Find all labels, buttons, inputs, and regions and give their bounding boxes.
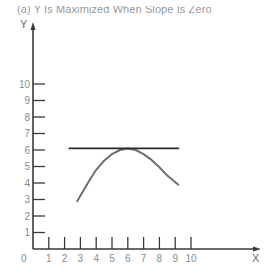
y-tick-label: 5 bbox=[24, 161, 30, 172]
x-axis-arrow-icon bbox=[253, 247, 261, 252]
x-tick-label: 4 bbox=[93, 253, 99, 264]
origin-label: 0 bbox=[21, 253, 27, 264]
x-axis-label: X bbox=[252, 252, 260, 264]
x-tick-label: 7 bbox=[141, 253, 147, 264]
x-tick-label: 10 bbox=[185, 253, 197, 264]
y-tick-label: 10 bbox=[19, 79, 31, 90]
x-tick-label: 9 bbox=[172, 253, 178, 264]
axis-ticks: 1234567891012345678910 bbox=[19, 79, 197, 265]
x-tick-label: 8 bbox=[157, 253, 163, 264]
axes: YX0 bbox=[20, 18, 261, 264]
x-tick-label: 1 bbox=[46, 253, 52, 264]
y-tick-label: 1 bbox=[24, 227, 30, 238]
y-axis-arrow-icon bbox=[31, 22, 36, 30]
x-tick-label: 2 bbox=[62, 253, 68, 264]
data-series bbox=[69, 148, 178, 201]
y-tick-label: 8 bbox=[24, 112, 30, 123]
curve-line bbox=[77, 148, 178, 201]
chart-canvas: YX0 1234567891012345678910 bbox=[0, 0, 280, 271]
y-tick-label: 7 bbox=[24, 128, 30, 139]
y-tick-label: 9 bbox=[24, 95, 30, 106]
y-tick-label: 6 bbox=[24, 145, 30, 156]
x-tick-label: 5 bbox=[109, 253, 115, 264]
y-tick-label: 3 bbox=[24, 194, 30, 205]
y-tick-label: 2 bbox=[24, 211, 30, 222]
y-axis-label: Y bbox=[20, 18, 28, 30]
y-tick-label: 4 bbox=[24, 178, 30, 189]
x-tick-label: 3 bbox=[78, 253, 84, 264]
x-tick-label: 6 bbox=[125, 253, 131, 264]
